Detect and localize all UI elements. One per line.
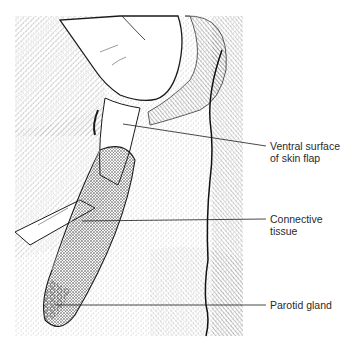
label-connective-tissue-line1: Connective [270,213,323,225]
label-connective-tissue: Connective tissue [270,213,323,237]
label-ventral-surface-line2: of skin flap [270,152,340,164]
label-parotid-gland-line1: Parotid gland [270,299,332,311]
label-ventral-surface-line1: Ventral surface [270,140,340,152]
label-ventral-surface: Ventral surface of skin flap [270,140,340,164]
label-parotid-gland: Parotid gland [270,299,332,311]
label-connective-tissue-line2: tissue [270,225,323,237]
